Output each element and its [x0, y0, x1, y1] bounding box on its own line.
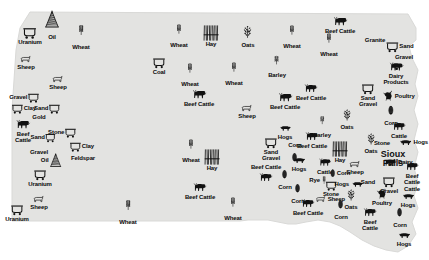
wheat-stalk-icon [123, 192, 133, 219]
cattle-icon [303, 129, 321, 143]
resource-marker-hogs[interactable]: Hogs [277, 123, 292, 140]
resource-label: Sand [361, 179, 375, 185]
resource-label: Corn [393, 221, 407, 227]
resource-marker-coal[interactable]: Coal [152, 56, 166, 75]
resource-marker-sheep[interactable]: Sheep [30, 193, 48, 210]
corn-ear-icon [386, 100, 395, 120]
resource-marker-sand-gravel[interactable]: Sand Gravel [359, 82, 377, 107]
resource-marker-corn[interactable]: Corn [393, 203, 407, 228]
barley-stalk-icon [318, 109, 326, 132]
resource-label: Sand [399, 43, 413, 49]
resource-marker-wheat[interactable]: Wheat [72, 17, 90, 50]
resource-label: Granite [365, 37, 385, 43]
resource-label: Wheat [224, 215, 242, 221]
resource-marker-feldspar[interactable]: Feldspar [71, 155, 95, 161]
resource-marker-beef-cattle[interactable]: Beef Cattle [251, 164, 281, 184]
mine-cart-icon [385, 40, 399, 53]
resource-marker-beef-cattle[interactable]: Beef Cattle [185, 180, 215, 200]
hay-bundle-icon [332, 140, 349, 157]
city-label-sioux-falls[interactable]: SiouxFalls [381, 150, 406, 168]
resource-marker-granite[interactable]: Granite [365, 37, 385, 43]
resource-marker-beef-cattle[interactable]: Beef Cattle [403, 159, 421, 185]
cattle-icon [403, 159, 421, 173]
resource-marker-sheep[interactable]: Sheep [49, 73, 67, 90]
resource-marker-hay[interactable]: Hay [203, 24, 220, 47]
mine-cart-icon [69, 140, 82, 152]
resource-marker-wheat[interactable]: Wheat [170, 16, 188, 48]
resource-label: Beef Cattle [325, 28, 355, 34]
resource-marker-beef-cattle[interactable]: Beef Cattle [296, 81, 326, 101]
cattle-icon [189, 87, 208, 101]
resource-marker-wheat[interactable]: Wheat [224, 189, 242, 221]
resource-marker-gold[interactable]: Gold [32, 114, 45, 120]
resource-marker-uranium[interactable]: Uranium [28, 168, 52, 187]
resource-label: Sheep [30, 205, 48, 211]
resource-marker-clay[interactable]: Clay [69, 140, 95, 152]
resource-marker-sheep[interactable]: Sheep [17, 53, 35, 70]
resource-marker-gravel[interactable]: Gravel [8, 91, 40, 103]
resource-marker-sheep[interactable]: Sheep [238, 102, 256, 119]
wheat-stalk-icon [229, 54, 238, 80]
resource-marker-sand[interactable]: Sand [361, 179, 375, 185]
resource-marker-oats[interactable]: Oats [365, 130, 378, 154]
resource-label: Hogs [397, 241, 412, 247]
resource-marker-hogs[interactable]: Hogs [291, 154, 308, 172]
resource-label: Sheep [17, 65, 35, 71]
resource-marker-barley[interactable]: Barley [268, 48, 286, 78]
resource-marker-beef-cattle[interactable]: Beef Cattle [293, 196, 323, 216]
resource-label: Beef Cattle [362, 219, 378, 231]
hog-icon [396, 229, 413, 241]
resource-marker-poultry[interactable]: Poultry [372, 187, 392, 206]
resource-label: Wheat [170, 42, 188, 48]
cattle-icon [330, 14, 349, 28]
wheat-stalk-icon [76, 17, 86, 44]
resource-label: Oats [242, 42, 255, 48]
resource-marker-uranium[interactable]: Uranium [18, 25, 42, 45]
resource-marker-stone[interactable]: Stone [47, 126, 77, 138]
resource-marker-hay[interactable]: Hay [204, 148, 221, 171]
resource-marker-beef-cattle[interactable]: Beef Cattle [325, 14, 355, 34]
resource-marker-hogs[interactable]: Hogs [397, 136, 429, 148]
resource-marker-corn[interactable]: Corn [334, 195, 348, 220]
poultry-chicken-icon [376, 187, 388, 200]
sheep-icon [32, 193, 47, 204]
corn-ear-icon [337, 195, 346, 214]
resource-marker-wheat[interactable]: Wheat [182, 131, 200, 163]
resource-marker-wheat[interactable]: Wheat [283, 17, 301, 49]
oats-stalk-icon [242, 22, 254, 42]
hay-bundle-icon [204, 148, 221, 165]
resource-label: Coal [153, 68, 166, 74]
resource-marker-sand[interactable]: Sand [385, 40, 414, 53]
mine-cart-icon [152, 56, 166, 69]
resource-label: Feldspar [71, 155, 95, 161]
resource-marker-oats[interactable]: Oats [242, 22, 255, 48]
hog-icon [397, 136, 414, 148]
resource-marker-corn[interactable]: Corn [278, 165, 292, 190]
resource-label: Barley [268, 72, 286, 78]
cattle-icon [390, 119, 408, 133]
dairy-cow-icon [387, 59, 405, 73]
mine-cart-icon [33, 168, 47, 181]
wheat-stalk-icon [185, 55, 194, 81]
resource-label: Oats [341, 124, 354, 130]
hog-icon [291, 154, 308, 166]
resource-marker-beef-cattle[interactable]: Beef Cattle [361, 205, 379, 231]
resource-marker-sand[interactable]: Sand [33, 102, 61, 114]
resource-marker-wheat[interactable]: Wheat [119, 192, 137, 225]
resource-label: Poultry [395, 92, 415, 98]
resource-label: Wheat [72, 44, 90, 50]
resource-label: Beef Cattle [270, 104, 300, 110]
mine-cart-icon [64, 126, 77, 138]
resource-label: Wheat [225, 80, 243, 86]
resource-label: Corn [278, 183, 292, 189]
sheep-icon [240, 102, 255, 113]
resource-marker-beef-cattle[interactable]: Beef Cattle [184, 87, 214, 107]
resource-marker-oil[interactable]: Oil [44, 4, 61, 40]
resource-marker-wheat[interactable]: Wheat [225, 54, 243, 86]
resource-marker-dairy-products[interactable]: Dairy Products [383, 59, 408, 85]
resource-marker-oats[interactable]: Oats [341, 106, 354, 130]
resource-marker-hogs[interactable]: Hogs [396, 229, 413, 247]
resource-marker-wheat[interactable]: Wheat [181, 55, 199, 87]
resource-marker-uranium[interactable]: Uranium [5, 203, 29, 222]
wheat-stalk-icon [174, 16, 183, 42]
